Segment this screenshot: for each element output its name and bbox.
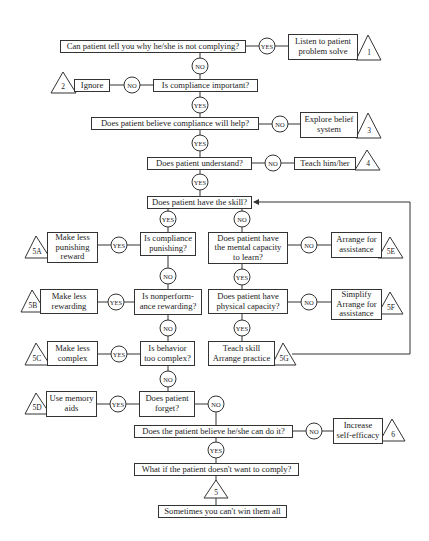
triangle-label-1: 1 — [367, 48, 371, 57]
action-ignore: Ignore — [74, 79, 110, 92]
no-circle-q5e: NO — [301, 237, 318, 254]
no-circle-q5a: NO — [160, 268, 177, 285]
action-simplify-arrange-assistance: Simplify Arrange for assistance — [331, 289, 382, 320]
no-circle-q6: NO — [306, 423, 323, 440]
yes-circle-q2: YES — [192, 97, 209, 114]
yes-circle-q5d: YES — [110, 396, 127, 413]
triangle-label-6: 6 — [391, 430, 395, 439]
yes-circle-q5: YES — [160, 211, 177, 228]
question-doesnt-want-to-comply: What if the patient doesn't want to comp… — [134, 463, 299, 476]
no-circle-q5c: NO — [160, 371, 177, 388]
action-make-less-punishing: Make less punishing reward — [47, 232, 98, 263]
no-circle-q4: NO — [265, 155, 282, 172]
triangle-label-5g: 5G — [279, 354, 288, 363]
question-physical-capacity: Does patient have physical capacity? — [208, 289, 288, 314]
triangle-label-5f: 5F — [387, 303, 395, 312]
triangle-label-2: 2 — [61, 82, 65, 91]
yes-circle-q5a: YES — [111, 237, 128, 254]
triangle-label-5a: 5A — [32, 247, 41, 256]
no-circle-q5: NO — [234, 211, 251, 228]
action-teach-him-her: Teach him/her — [294, 157, 356, 170]
yes-circle-q3: YES — [192, 135, 209, 152]
question-can-tell-why: Can patient tell you why he/she is not c… — [60, 40, 246, 53]
action-make-less-rewarding: Make less rewarding — [40, 289, 98, 314]
question-compliance-important: Is compliance important? — [153, 79, 258, 92]
yes-circle-q5e: YES — [234, 269, 251, 286]
yes-circle-q5c: YES — [111, 346, 128, 363]
question-mental-capacity: Does patient have the mental capacity to… — [208, 232, 288, 264]
yes-circle-q4: YES — [192, 174, 209, 191]
question-nonperformance-rewarding: Is nonperform- ance rewarding? — [134, 289, 202, 315]
conclusion-cant-win-them-all: Sometimes you can't win them all — [158, 505, 287, 518]
no-circle-q1: NO — [192, 58, 209, 75]
action-make-less-complex: Make less complex — [47, 341, 98, 366]
action-explore-belief-system: Explore belief system — [300, 112, 358, 138]
question-compliance-punishing: Is compliance punishing? — [140, 232, 196, 256]
no-circle-q5f: NO — [301, 294, 318, 311]
yes-circle-q1: YES — [259, 38, 276, 55]
no-circle-q2: NO — [124, 77, 141, 94]
action-increase-self-efficacy: Increase self-efficacy — [333, 418, 383, 444]
yes-circle-q5f: YES — [234, 320, 251, 337]
question-behavior-too-complex: Is behavior too complex? — [140, 341, 195, 366]
triangle-label-5e: 5E — [387, 247, 395, 256]
no-circle-q3: NO — [272, 116, 289, 133]
action-arrange-assistance: Arrange for assistance — [331, 232, 382, 258]
triangle-label-4: 4 — [366, 159, 370, 168]
question-patient-understand: Does patient understand? — [147, 157, 252, 170]
triangle-label-3: 3 — [367, 126, 371, 135]
triangle-label-5: 5 — [214, 488, 218, 497]
no-circle-q5b: NO — [160, 320, 177, 337]
yes-circle-q5b: YES — [108, 294, 125, 311]
yes-circle-q6: YES — [208, 442, 225, 459]
question-have-skill: Does patient have the skill? — [147, 196, 252, 209]
action-teach-skill-arrange-practice: Teach skill Arrange practice — [208, 341, 275, 366]
question-believe-compliance-helps: Does patient believe compliance will hel… — [91, 117, 259, 130]
question-believe-can-do-it: Does the patient believe he/she can do i… — [134, 425, 293, 438]
triangle-label-5c: 5C — [33, 354, 42, 363]
triangle-label-5b: 5B — [29, 301, 38, 310]
question-patient-forget: Does patient forget? — [139, 391, 195, 417]
no-circle-q5d: NO — [208, 396, 225, 413]
triangle-label-5d: 5D — [32, 403, 41, 412]
action-use-memory-aids: Use memory aids — [46, 391, 97, 417]
flowchart-canvas: Can patient tell you why he/she is not c… — [0, 0, 429, 541]
action-listen-problem-solve: Listen to patient problem solve — [288, 34, 358, 60]
